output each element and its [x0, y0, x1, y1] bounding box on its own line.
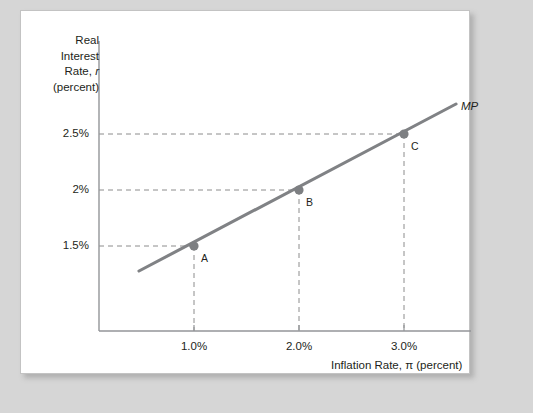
x-tick-label-1: 2.0%: [269, 340, 329, 352]
data-point-a-label: A: [201, 252, 208, 264]
y-axis-title-line-2: Interest: [53, 49, 99, 65]
chart-plot-area: Real Interest Rate, r (percent) 2.5% 2% …: [21, 11, 471, 375]
data-point-c-label: C: [411, 140, 419, 152]
page-margin-clipped-text: e: [0, 88, 10, 97]
axis-ticks: [194, 325, 404, 331]
y-axis-title-line-3: Rate, r: [53, 64, 99, 80]
data-point-b-marker: [294, 185, 303, 194]
pi-symbol: π: [405, 359, 413, 371]
y-tick-label-1: 2%: [29, 183, 89, 195]
y-axis-title-line-4: (percent): [53, 80, 99, 96]
y-axis-title: Real Interest Rate, r (percent): [53, 33, 99, 95]
x-axis-title-text-a: Inflation Rate,: [331, 359, 405, 371]
x-axis-title-text-c: (percent): [413, 359, 462, 371]
x-axis-title: Inflation Rate, π (percent): [331, 359, 462, 371]
x-tick-label-2: 3.0%: [374, 340, 434, 352]
y-tick-label-0: 1.5%: [29, 239, 89, 251]
chart-axes: [99, 41, 471, 331]
mp-curve-label: MP: [461, 100, 478, 112]
x-tick-label-0: 1.0%: [164, 340, 224, 352]
figure-panel: Real Interest Rate, r (percent) 2.5% 2% …: [20, 10, 470, 374]
y-axis-title-symbol-r: r: [95, 65, 99, 77]
y-axis-title-line-3-text: Rate,: [64, 65, 95, 77]
data-point-c-marker: [399, 129, 408, 138]
data-point-a-marker: [189, 241, 198, 250]
y-axis-title-line-1: Real: [53, 33, 99, 49]
data-point-b-label: B: [306, 196, 313, 208]
y-tick-label-2: 2.5%: [29, 127, 89, 139]
guide-lines: [99, 134, 404, 331]
